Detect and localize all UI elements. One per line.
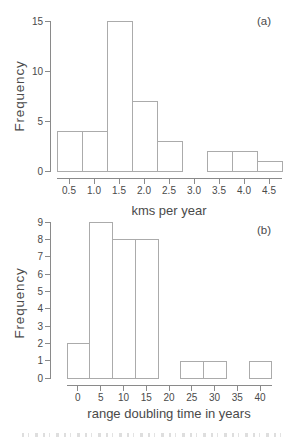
y-axis-tick-label: 9 [37,218,43,228]
x-axis-tick-label: 40 [255,393,266,403]
histogram-bar [112,239,136,379]
x-axis-tick-label: 5 [98,393,104,403]
y-axis-tick-label: 4 [37,304,43,314]
histogram-bar [89,222,113,379]
x-axis-tick [169,386,170,391]
x-axis-tick [100,386,101,391]
panel-label-b: (b) [257,225,271,237]
y-axis-tick [45,308,50,309]
y-axis-tick [45,360,50,361]
y-axis-tick [45,274,50,275]
y-axis-line [50,222,51,379]
histogram-bar [249,361,273,379]
histogram-bar [135,239,159,379]
x-axis-tick-label: 30 [209,393,220,403]
histogram-panel-b: 01234567890510152025303540range doubling… [0,0,289,439]
x-axis-tick [214,386,215,391]
y-axis-tick-label: 1 [37,356,43,366]
histogram-bar [203,361,227,379]
x-axis-tick-label: 25 [186,393,197,403]
y-axis-tick-label: 2 [37,339,43,349]
y-axis-tick [45,239,50,240]
y-axis-tick [45,222,50,223]
y-axis-tick [45,378,50,379]
y-axis-tick-label: 7 [37,252,43,262]
two-panel-histogram-figure: 0510150.51.01.52.02.53.03.54.04.5kms per… [0,0,289,439]
x-axis-tick [77,386,78,391]
x-axis-tick-label: 0 [75,393,81,403]
y-axis-tick [45,326,50,327]
x-axis-tick [260,386,261,391]
y-axis-tick-label: 3 [37,322,43,332]
y-axis-title: Frequency [13,268,27,339]
histogram-bar [180,361,204,379]
y-axis-tick-label: 0 [37,374,43,384]
x-axis-tick [123,386,124,391]
x-axis-tick [237,386,238,391]
y-axis-tick [45,256,50,257]
x-axis-tick [146,386,147,391]
x-axis-tick-label: 35 [232,393,243,403]
x-axis-tick-label: 20 [163,393,174,403]
x-axis-tick-label: 15 [141,393,152,403]
y-axis-tick-label: 5 [37,287,43,297]
y-axis-tick-label: 8 [37,235,43,245]
y-axis-tick-label: 6 [37,270,43,280]
x-axis-tick-label: 10 [118,393,129,403]
cut-off-caption-fragment [22,433,282,437]
histogram-bar [67,343,91,379]
x-axis-tick [191,386,192,391]
x-axis-title: range doubling time in years [87,407,250,420]
y-axis-tick [45,291,50,292]
y-axis-tick [45,343,50,344]
